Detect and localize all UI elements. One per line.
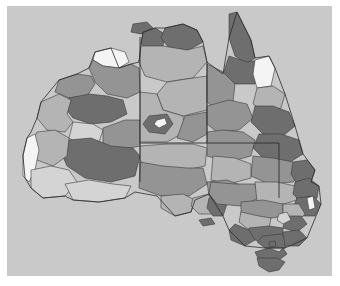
map-panel[interactable]: [7, 6, 332, 276]
figure-root: [0, 0, 340, 286]
region-tas-islet[interactable]: [269, 241, 276, 247]
australia-choropleth-svg[interactable]: [7, 6, 332, 276]
